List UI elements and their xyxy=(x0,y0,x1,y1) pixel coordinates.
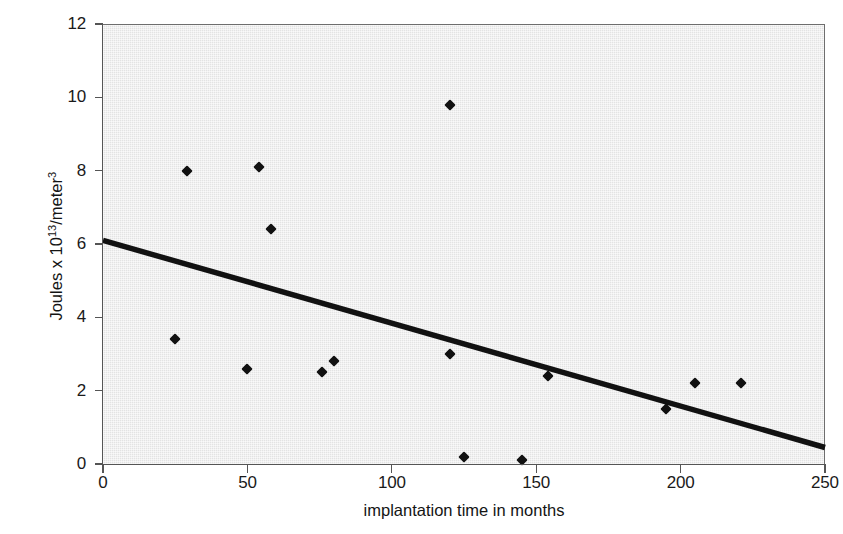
y-axis-title-exponent-1: 13 xyxy=(46,225,58,237)
y-axis-tick xyxy=(95,390,103,391)
scatter-chart: 024681012 050100150200250 Joules x 1013/… xyxy=(0,0,843,534)
y-axis-tick-label: 12 xyxy=(46,15,86,32)
x-axis-tick-label: 200 xyxy=(651,473,711,492)
y-axis-title-middle: /meter xyxy=(47,178,65,225)
y-axis-title-prefix: Joules x 10 xyxy=(47,237,65,320)
x-axis-title: implantation time in months xyxy=(103,500,825,520)
x-axis-tick-label: 150 xyxy=(506,473,566,492)
y-axis-tick xyxy=(95,23,103,24)
y-axis-title-exponent-2: 3 xyxy=(46,172,58,178)
plot-area xyxy=(103,24,825,464)
x-axis-tick xyxy=(824,465,825,473)
x-axis-tick xyxy=(391,465,392,473)
y-axis-title: Joules x 1013/meter3 xyxy=(42,86,67,406)
x-axis-line xyxy=(103,464,826,465)
y-axis-tick xyxy=(95,317,103,318)
x-axis-tick-label: 100 xyxy=(362,473,422,492)
x-axis-tick xyxy=(247,465,248,473)
y-axis-tick-label: 0 xyxy=(46,455,86,472)
x-axis-tick xyxy=(680,465,681,473)
x-axis-tick-label: 250 xyxy=(795,473,843,492)
x-axis-tick xyxy=(536,465,537,473)
x-axis-tick-label: 50 xyxy=(217,473,277,492)
trendline xyxy=(103,24,825,464)
y-axis-tick xyxy=(95,170,103,171)
y-axis-tick xyxy=(95,97,103,98)
y-axis-tick xyxy=(95,243,103,244)
x-axis-tick-label: 0 xyxy=(73,473,133,492)
x-axis-tick xyxy=(102,465,103,473)
